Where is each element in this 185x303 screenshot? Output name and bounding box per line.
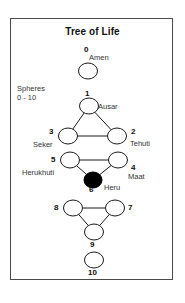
page-title: Tree of Life: [0, 26, 185, 37]
sphere-name-tehuti: Tehuti: [130, 140, 150, 148]
sphere-number-7: 7: [128, 204, 132, 212]
sphere-number-9: 9: [90, 241, 94, 249]
sphere-number-5: 5: [51, 156, 55, 164]
sphere-number-3: 3: [49, 128, 53, 136]
sphere-name-maat: Maat: [128, 173, 145, 181]
sphere-name-ausar: Ausar: [98, 103, 118, 111]
sphere-number-8: 8: [54, 204, 58, 212]
sphere-name-seker: Seker: [33, 141, 53, 149]
spheres-legend-line2: 0 - 10: [17, 94, 45, 103]
sphere-number-0: 0: [84, 46, 88, 54]
sphere-name-herukhuti: Herukhuti: [22, 169, 54, 177]
sphere-name-amen: Amen: [89, 54, 109, 62]
sphere-number-6: 6: [89, 186, 93, 194]
sphere-name-heru: Heru: [104, 184, 120, 192]
sphere-number-10: 10: [88, 269, 97, 277]
sphere-number-1: 1: [85, 90, 89, 98]
sphere-number-2: 2: [131, 128, 135, 136]
spheres-legend: Spheres 0 - 10: [17, 85, 45, 103]
tree-of-life-figure: Tree of Life Spheres 0 - 10 0Amen1Ausar3…: [0, 0, 185, 303]
